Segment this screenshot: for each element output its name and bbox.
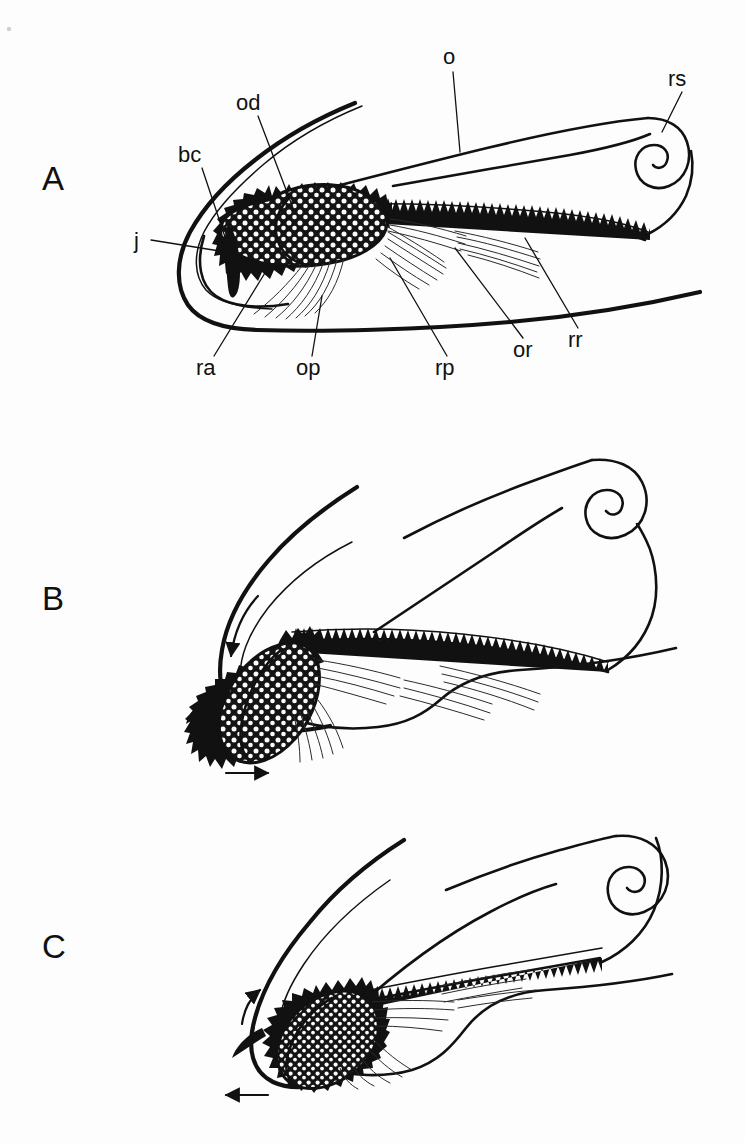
oesophagus-upper-wall-c	[446, 836, 616, 890]
oesophagus-lower-wall-b	[374, 508, 562, 632]
odontophore-retractor-muscle-b	[400, 680, 492, 720]
panel-b-letter: B	[42, 580, 64, 617]
panel-b: B	[42, 460, 676, 773]
figure-canvas: A	[0, 0, 745, 1143]
label-odontophore-protractor: op	[296, 355, 320, 380]
oesophagus-upper-wall-b	[404, 460, 592, 538]
label-radular-protractor: rp	[435, 355, 455, 380]
radular-sac-outer-edge-b	[608, 524, 656, 670]
panel-c-letter: C	[42, 928, 66, 965]
label-odontophore: od	[236, 90, 260, 115]
radular-protractor-muscle-b	[314, 660, 400, 704]
label-oesophagus: o	[443, 44, 455, 69]
odontophore-anterior-spur-c	[232, 1028, 266, 1058]
leader-op	[312, 296, 322, 356]
odontophore-b	[184, 626, 326, 769]
oesophagus-upper-wall	[298, 118, 648, 196]
radular-teeth-row-b	[292, 628, 608, 672]
leader-o	[453, 72, 460, 152]
leader-rs	[662, 92, 682, 132]
label-radular-retractor: rr	[568, 327, 583, 352]
paper-speck	[7, 27, 11, 31]
label-jaw: j	[133, 228, 139, 253]
label-radular-sac: rs	[668, 66, 686, 91]
label-odontophore-retractor: or	[513, 337, 533, 362]
leader-rr	[525, 238, 578, 328]
figure-root: A	[0, 0, 745, 1143]
label-buccal-cavity: bc	[178, 142, 201, 167]
arrow-odontophore-rotation-b	[231, 596, 258, 656]
oesophagus-lower-wall	[393, 134, 650, 186]
leader-ra	[214, 268, 268, 356]
label-radula-anterior: ra	[196, 355, 216, 380]
leader-rp	[390, 258, 447, 356]
radular-retractor-muscle	[455, 231, 540, 278]
panel-a-letter: A	[42, 160, 64, 197]
panel-c: C	[42, 836, 672, 1095]
radular-sac-outer-edge	[648, 151, 692, 234]
radular-teeth-row	[352, 198, 650, 240]
radular-sac-spiral	[635, 118, 689, 188]
panel-a: A	[42, 44, 700, 380]
